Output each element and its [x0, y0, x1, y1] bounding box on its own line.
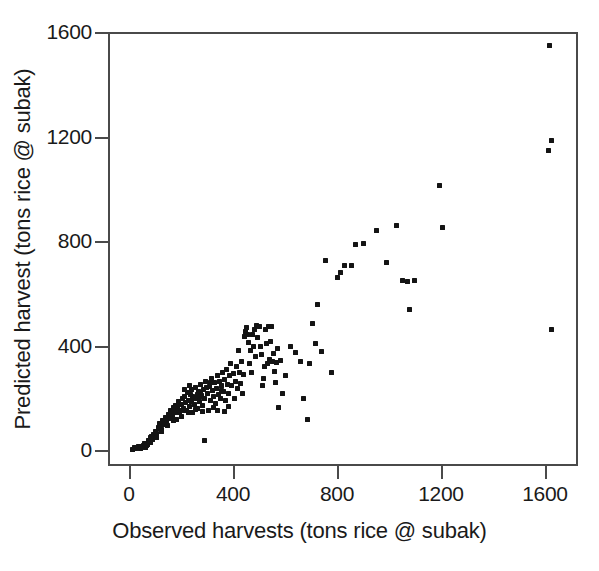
x-axis-tick [545, 466, 547, 479]
x-axis-tick [337, 466, 339, 479]
y-axis-title: Predicted harvest (tons rice @ subak) [6, 32, 40, 466]
y-axis-tick-label: 1200 [46, 126, 92, 147]
plot-frame [108, 32, 578, 466]
x-axis-title: Observed harvests (tons rice @ subak) [0, 518, 599, 544]
y-axis-tick [95, 32, 108, 34]
y-axis-tick-label: 800 [58, 230, 92, 251]
x-axis-tick-label: 400 [216, 483, 250, 504]
y-axis-tick-label: 400 [58, 335, 92, 356]
x-axis-tick-label: 1200 [418, 483, 464, 504]
x-axis-tick [129, 466, 131, 479]
x-axis-tick-label: 800 [320, 483, 354, 504]
x-axis-tick [441, 466, 443, 479]
y-axis-tick [95, 137, 108, 139]
scatter-plot-figure: 040080012001600 040080012001600 Predicte… [0, 0, 599, 571]
y-axis-tick [95, 241, 108, 243]
x-axis-tick-label: 0 [123, 483, 134, 504]
x-axis-tick [233, 466, 235, 479]
y-axis-tick [95, 346, 108, 348]
y-axis-tick-label: 1600 [46, 21, 92, 42]
y-axis-tick [95, 450, 108, 452]
y-axis-tick-label: 0 [81, 439, 92, 460]
x-axis-tick-label: 1600 [522, 483, 568, 504]
